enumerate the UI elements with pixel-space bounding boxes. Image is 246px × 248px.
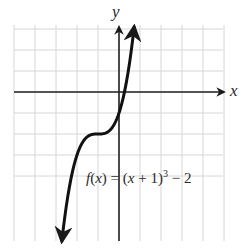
y-axis-label: y: [110, 2, 120, 21]
cubic-function-graph: x y f(x) = (x + 1)3 − 2: [0, 0, 246, 248]
eq-tail: − 2: [168, 170, 191, 186]
equation-label: f(x) = (x + 1)3 − 2: [86, 168, 191, 187]
eq-plus: + 1): [134, 170, 162, 187]
x-axis-label: x: [229, 81, 238, 100]
eq-eq: = (: [107, 170, 128, 187]
